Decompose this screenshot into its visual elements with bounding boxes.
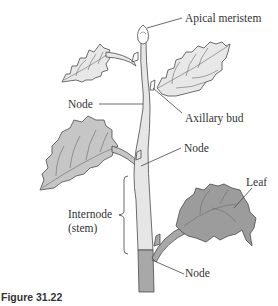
plant-diagram: Apical meristem Node Axillary bud Node I… [0, 0, 278, 306]
label-internode: Internode [68, 208, 112, 220]
upper-left-petiole [106, 52, 136, 66]
label-node-middle: Node [184, 142, 209, 154]
axillary-bud-upper-left [132, 52, 138, 62]
label-internode-stem: (stem) [68, 222, 98, 235]
lower-right-leaf [176, 184, 256, 246]
axillary-bud-lower [154, 234, 160, 246]
label-axillary-bud: Axillary bud [185, 112, 244, 125]
label-node-upper: Node [68, 98, 93, 110]
label-leaf: Leaf [246, 176, 267, 188]
apical-meristem-leader [147, 18, 182, 28]
label-node-lower: Node [185, 267, 210, 279]
axillary-bud-upper-right [150, 80, 155, 90]
apical-bud [138, 25, 149, 44]
middle-left-leaf [40, 116, 118, 190]
internode-brace [119, 176, 128, 254]
upper-left-leaf [62, 44, 110, 82]
lower-node-leader [152, 260, 184, 274]
upper-right-leaf [157, 42, 230, 96]
lower-stem [138, 250, 154, 292]
figure-caption: Figure 31.22 [1, 291, 62, 303]
upper-stem [134, 42, 153, 250]
label-apical-meristem: Apical meristem [185, 12, 261, 25]
